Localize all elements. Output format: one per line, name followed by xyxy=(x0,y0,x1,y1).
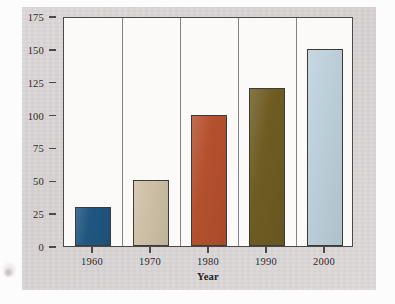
x-axis-title: Year xyxy=(63,271,353,282)
y-axis-tick-label: 25 xyxy=(33,209,44,220)
y-axis-tick xyxy=(49,82,56,83)
bar-sheen xyxy=(250,89,284,245)
x-axis-tick xyxy=(265,247,266,253)
category-separator xyxy=(122,18,123,246)
y-axis-tick xyxy=(49,181,56,182)
bar-2000 xyxy=(307,49,343,246)
plot-inner xyxy=(64,18,352,246)
bar-sheen xyxy=(76,208,110,245)
y-axis-tick xyxy=(49,16,56,17)
x-axis-tick xyxy=(91,247,92,253)
y-axis-tick-label: 100 xyxy=(28,110,44,121)
y-axis-tick-label: 175 xyxy=(28,12,44,23)
x-axis-tick-label: 2000 xyxy=(313,256,335,267)
y-axis-tick-label: 150 xyxy=(28,44,44,55)
y-axis-tick xyxy=(49,246,56,247)
plot-area xyxy=(63,17,353,247)
bar-sheen xyxy=(192,116,226,245)
bar-1970 xyxy=(133,180,169,246)
y-axis-tick xyxy=(49,115,56,116)
bar-1990 xyxy=(249,88,285,246)
category-separator xyxy=(296,18,297,246)
y-axis-tick xyxy=(49,213,56,214)
x-axis-tick-label: 1980 xyxy=(197,256,219,267)
figure-page: 0255075100125150175 Billions of dollars … xyxy=(0,0,395,304)
bar-sheen xyxy=(308,50,342,245)
y-axis-tick xyxy=(49,148,56,149)
x-axis: 19601970198019902000 xyxy=(63,247,353,289)
y-axis-tick-label: 50 xyxy=(33,176,44,187)
x-axis-tick-label: 1990 xyxy=(255,256,277,267)
x-axis-tick-label: 1960 xyxy=(81,256,103,267)
category-separator xyxy=(238,18,239,246)
category-separator xyxy=(180,18,181,246)
y-axis-tick xyxy=(49,49,56,50)
y-axis-tick-label: 75 xyxy=(33,143,44,154)
bar-sheen xyxy=(134,181,168,245)
x-axis-tick-label: 1970 xyxy=(139,256,161,267)
bar-1980 xyxy=(191,115,227,246)
x-axis-tick xyxy=(149,247,150,253)
y-axis-tick-label: 125 xyxy=(28,77,44,88)
x-axis-tick xyxy=(323,247,324,253)
scan-artifact-dot xyxy=(4,268,13,277)
y-axis: 0255075100125150175 xyxy=(0,17,56,247)
x-axis-tick xyxy=(207,247,208,253)
y-axis-tick-label: 0 xyxy=(39,242,44,253)
bar-1960 xyxy=(75,207,111,246)
